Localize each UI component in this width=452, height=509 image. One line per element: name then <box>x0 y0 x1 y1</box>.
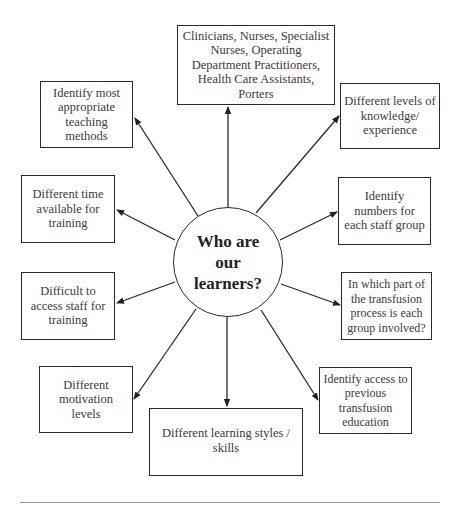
arrow-to-staff-numbers <box>280 212 337 240</box>
node-label: Different learning styles / skills <box>153 426 299 455</box>
node-label: Different motivation levels <box>51 378 121 422</box>
node-teaching-methods: Identify most appropriate teaching metho… <box>40 81 133 148</box>
node-label: Identify access to previous transfusion … <box>323 372 408 430</box>
center-node: Who are our learners? <box>173 207 283 317</box>
node-previous-education: Identify access to previous transfusion … <box>319 367 412 434</box>
node-staff-groups: Clinicians, Nurses, Specialist Nurses, O… <box>177 25 335 105</box>
node-label: Different levels of knowledge/ experienc… <box>344 94 436 138</box>
node-label: Identify most appropriate teaching metho… <box>48 86 126 144</box>
node-label: Difficult to access staff for training <box>25 284 111 328</box>
node-label: Different time available for training <box>25 187 111 231</box>
arrow-to-knowledge-levels <box>256 116 339 213</box>
node-transfusion-process: In which part of the transfusion process… <box>341 272 432 340</box>
arrow-to-transfusion-process <box>281 284 340 305</box>
node-label: Identify numbers for each staff group <box>342 189 427 233</box>
arrow-to-access-staff <box>117 282 175 303</box>
node-time-available: Different time available for training <box>21 175 115 243</box>
node-learning-styles: Different learning styles / skills <box>149 408 303 476</box>
arrow-to-motivation <box>134 309 196 399</box>
arrow-to-previous-education <box>261 310 318 400</box>
node-access-staff: Difficult to access staff for training <box>21 272 115 340</box>
footer-divider <box>20 502 440 503</box>
node-staff-numbers: Identify numbers for each staff group <box>338 177 431 245</box>
center-label: Who are our learners? <box>188 231 268 294</box>
arrow-to-teaching-methods <box>135 118 198 216</box>
arrow-to-time-available <box>117 210 175 240</box>
node-knowledge-levels: Different levels of knowledge/ experienc… <box>340 83 440 149</box>
node-label: Clinicians, Nurses, Specialist Nurses, O… <box>181 29 331 102</box>
node-motivation: Different motivation levels <box>39 366 133 433</box>
node-label: In which part of the transfusion process… <box>345 277 428 335</box>
